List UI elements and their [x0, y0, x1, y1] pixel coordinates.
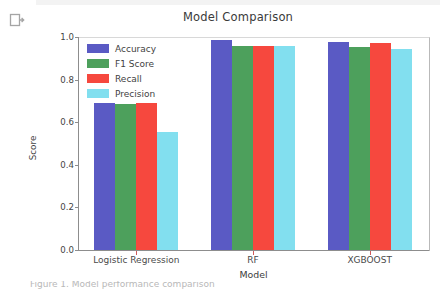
x-axis-tick-label: Logistic Regression [93, 255, 179, 265]
figure-caption: Figure 1. Model performance comparison [30, 281, 215, 289]
chart-title: Model Comparison [36, 10, 440, 24]
legend-label: F1 Score [115, 59, 154, 69]
y-axis-tick-label: 0.2 [44, 202, 74, 212]
x-axis-tick-mark [253, 251, 254, 255]
y-axis-tick-mark [75, 250, 79, 251]
x-axis-tick-mark [136, 251, 137, 255]
x-axis-tick-mark [370, 251, 371, 255]
y-axis-tick-label: 0.0 [44, 245, 74, 255]
figure-canvas: Model Comparison 0.00.20.40.60.81.0 Scor… [0, 0, 440, 289]
bar-xgboost-precision [391, 49, 412, 250]
bar-xgboost-recall [370, 43, 391, 250]
legend-label: Recall [115, 74, 142, 84]
figure-top-band [0, 0, 440, 5]
bar-rf-accuracy [211, 40, 232, 250]
legend-swatch-icon [87, 74, 109, 83]
chart-legend: AccuracyF1 ScoreRecallPrecision [83, 38, 175, 103]
cell-output-arrow-icon [9, 12, 25, 28]
legend-item-f1-score[interactable]: F1 Score [83, 56, 175, 71]
bar-rf-precision [274, 46, 295, 250]
legend-item-accuracy[interactable]: Accuracy [83, 41, 175, 56]
legend-label: Accuracy [115, 44, 156, 54]
x-axis-tick-label: XGBOOST [347, 255, 392, 265]
x-axis-label: Model [78, 269, 429, 280]
y-axis-label: Score [28, 113, 38, 183]
legend-label: Precision [115, 89, 155, 99]
y-axis-tick-label: 0.4 [44, 160, 74, 170]
bar-rf-f1-score [232, 46, 253, 250]
y-axis-tick-label: 1.0 [44, 32, 74, 42]
legend-swatch-icon [87, 44, 109, 53]
bar-rf-recall [253, 46, 274, 250]
x-axis-tick-label: RF [247, 255, 258, 265]
y-axis-tick-label: 0.8 [44, 75, 74, 85]
bar-xgboost-f1-score [349, 47, 370, 250]
bar-logistic-regression-recall [136, 100, 157, 250]
bar-logistic-regression-f1-score [115, 104, 136, 250]
legend-item-precision[interactable]: Precision [83, 86, 175, 101]
legend-swatch-icon [87, 89, 109, 98]
bar-xgboost-accuracy [328, 42, 349, 250]
bar-logistic-regression-precision [157, 132, 178, 250]
caption-strip: Figure 1. Model performance comparison [0, 281, 440, 289]
bar-logistic-regression-accuracy [94, 100, 115, 250]
legend-item-recall[interactable]: Recall [83, 71, 175, 86]
y-axis-tick-label: 0.6 [44, 117, 74, 127]
legend-swatch-icon [87, 59, 109, 68]
